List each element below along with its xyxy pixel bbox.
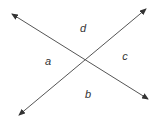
lines-canvas [0, 0, 160, 117]
angle-label-bottom: b [85, 89, 91, 100]
angle-label-right: c [122, 51, 128, 62]
angle-label-top: d [80, 23, 86, 34]
intersecting-lines-diagram: d a c b [0, 0, 160, 117]
angle-label-left: a [45, 56, 51, 67]
